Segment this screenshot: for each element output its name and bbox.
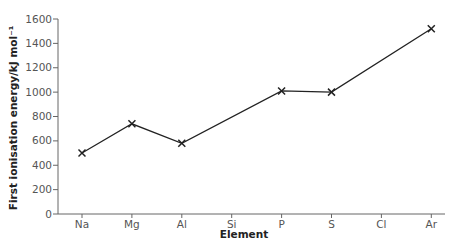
series-line [82,29,431,153]
cross-marker-icon [428,25,435,32]
y-tick-label: 0 [45,208,52,220]
cross-marker-icon [178,140,185,147]
cross-marker-icon [128,120,135,127]
y-tick-label: 400 [32,159,52,171]
x-tick-label: Na [75,218,89,230]
x-tick-label: Cl [376,218,386,230]
y-tick-label: 1200 [25,61,52,73]
x-tick-label: P [278,218,284,230]
y-tick-label: 1400 [25,37,52,49]
y-tick-label: 1000 [25,86,52,98]
axes [58,19,445,214]
y-axis-title: First ionisation energy/kJ mol⁻¹ [7,25,19,210]
x-tick-label: Al [177,218,187,230]
y-tick-label: 200 [32,183,52,195]
data-series [79,25,435,156]
y-axis-ticks: 02004006008001000120014001600 [25,13,58,220]
y-tick-label: 1600 [25,13,52,25]
x-tick-label: Mg [124,218,140,230]
x-axis-title: Element [220,228,268,240]
x-tick-label: S [328,218,335,230]
y-tick-label: 600 [32,134,52,146]
y-tick-label: 800 [32,110,52,122]
line-chart: 02004006008001000120014001600 NaMgAlSiPS… [0,0,457,243]
cross-marker-icon [79,150,86,157]
x-tick-label: Ar [426,218,438,230]
